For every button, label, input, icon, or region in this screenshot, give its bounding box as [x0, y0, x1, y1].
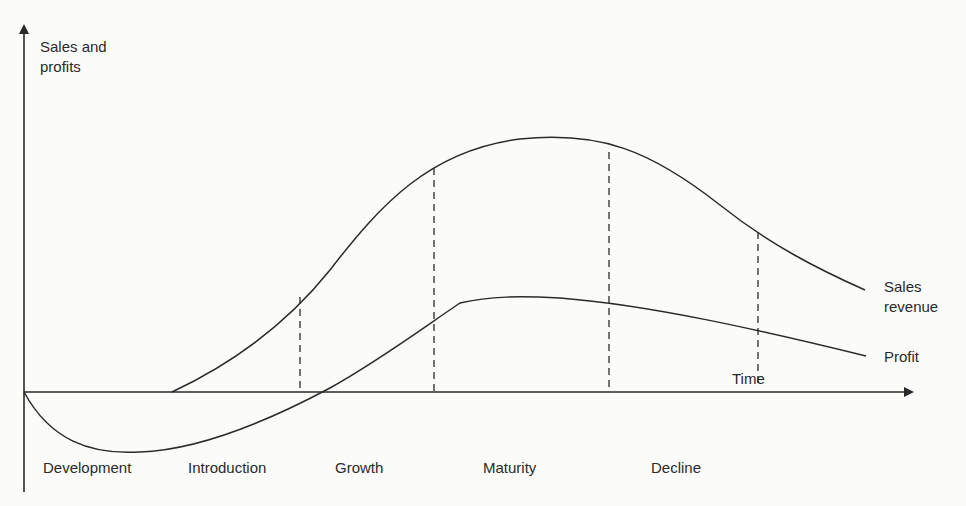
y-axis-label-line2: profits: [40, 58, 81, 75]
profit-label: Profit: [884, 348, 920, 365]
stage-label-growth: Growth: [335, 459, 383, 476]
sales-revenue-label-line1: Sales: [884, 278, 922, 295]
stage-label-maturity: Maturity: [483, 459, 537, 476]
sales-revenue-curve: [172, 137, 865, 392]
stage-label-introduction: Introduction: [188, 459, 266, 476]
stage-boundaries: [300, 152, 758, 392]
y-axis-label-line1: Sales and: [40, 38, 107, 55]
stage-label-development: Development: [43, 459, 132, 476]
x-axis-label: Time: [732, 370, 765, 387]
product-life-cycle-diagram: Sales and profits Time Sales revenue Pro…: [0, 0, 966, 506]
sales-revenue-label-line2: revenue: [884, 298, 938, 315]
stage-label-decline: Decline: [651, 459, 701, 476]
